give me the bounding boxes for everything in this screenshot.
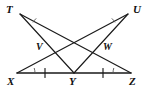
segment-uy — [74, 14, 128, 73]
vertex-label-x: X — [7, 76, 14, 87]
vertex-label-y: Y — [69, 76, 76, 87]
vertex-label-t: T — [6, 4, 13, 15]
segment-ty — [20, 14, 74, 73]
point-label-w: W — [103, 42, 112, 52]
point-label-v: V — [36, 42, 43, 52]
vertex-label-u: U — [133, 4, 141, 15]
geometry-figure: T U V W X Y Z — [0, 0, 147, 92]
vertex-label-z: Z — [129, 76, 136, 87]
